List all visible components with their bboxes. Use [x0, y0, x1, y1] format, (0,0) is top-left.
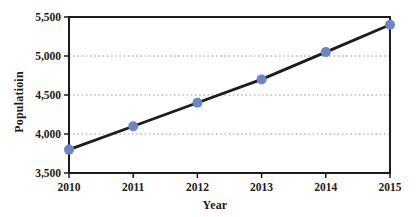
x-tick-label: 2011	[122, 181, 145, 193]
data-point	[64, 145, 74, 155]
chart-canvas: 3,5004,0004,5005,0005,500201020112012201…	[0, 0, 418, 217]
y-axis-title: Populatioin	[12, 71, 27, 133]
y-tick-label: 5,000	[35, 50, 61, 62]
x-tick-label: 2013	[250, 181, 273, 193]
y-tick-label: 4,000	[35, 128, 61, 140]
x-tick-label: 2010	[58, 181, 81, 193]
data-point	[192, 98, 202, 108]
data-line	[69, 25, 390, 150]
y-tick-label: 4,500	[35, 89, 61, 101]
x-tick-label: 2014	[314, 181, 337, 193]
data-point	[321, 47, 331, 57]
data-point	[385, 20, 395, 30]
x-tick-label: 2012	[186, 181, 209, 193]
x-axis-title: Year	[203, 198, 228, 213]
x-tick-label: 2015	[379, 181, 402, 193]
data-point	[128, 121, 138, 131]
data-point	[257, 74, 267, 84]
y-tick-label: 5,500	[35, 11, 61, 23]
population-line-chart-figure: 3,5004,0004,5005,0005,500201020112012201…	[0, 0, 418, 217]
y-tick-label: 3,500	[35, 167, 61, 179]
